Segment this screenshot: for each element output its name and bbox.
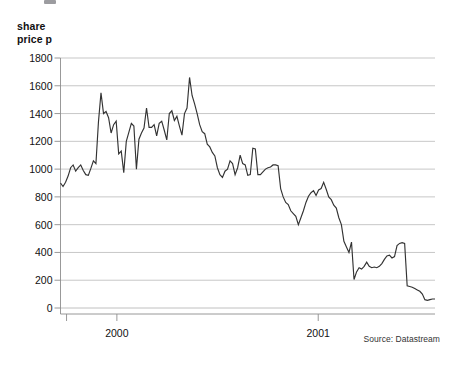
y-tick-label: 800 (9, 192, 53, 203)
x-tick-label: 2001 (288, 328, 348, 339)
y-axis-title: share price p (17, 20, 52, 45)
share-price-chart-figure: share price p Source: Datastream 0200400… (0, 0, 452, 367)
y-tick-label: 400 (9, 247, 53, 258)
plot-canvas (0, 0, 452, 367)
y-axis (55, 58, 61, 314)
y-tick-label: 1400 (9, 109, 53, 120)
cropped-title-remnant (44, 0, 56, 4)
y-tick-label: 1200 (9, 136, 53, 147)
y-tick-label: 1600 (9, 81, 53, 92)
y-tick-label: 0 (9, 303, 53, 314)
share-price-line (61, 77, 436, 300)
x-tick-label: 2000 (87, 328, 147, 339)
y-tick-label: 1000 (9, 164, 53, 175)
source-note: Source: Datastream (364, 334, 441, 344)
x-axis (61, 314, 436, 321)
gridlines (61, 58, 436, 308)
y-tick-label: 1800 (9, 53, 53, 64)
y-tick-label: 200 (9, 275, 53, 286)
y-tick-label: 600 (9, 220, 53, 231)
